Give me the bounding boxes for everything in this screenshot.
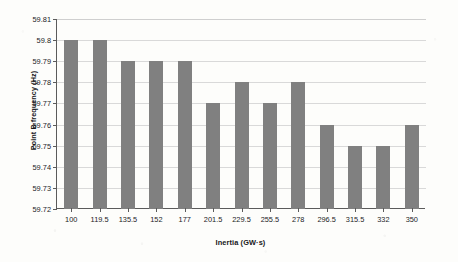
x-axis-title: Inertia (GW·s) — [56, 238, 425, 247]
x-tick-mark — [298, 208, 299, 212]
x-tick-mark — [383, 208, 384, 212]
y-tick-label: 59.79 — [33, 57, 52, 66]
y-tick-label: 59.74 — [33, 162, 52, 171]
bar — [263, 103, 277, 209]
x-tick-mark — [412, 208, 413, 212]
x-tick-label: 296.5 — [317, 215, 336, 224]
y-tick-label: 59.77 — [33, 99, 52, 108]
x-tick-label: 332 — [377, 215, 389, 224]
bar — [291, 82, 305, 209]
x-tick-mark — [100, 208, 101, 212]
x-tick-label: 152 — [150, 215, 162, 224]
bar — [376, 146, 390, 209]
x-tick-label: 255.5 — [261, 215, 280, 224]
x-tick-mark — [242, 208, 243, 212]
x-tick-label: 119.5 — [91, 215, 109, 224]
y-tick-label: 59.73 — [33, 183, 52, 192]
y-tick-label: 59.76 — [33, 120, 52, 129]
x-tick-label: 100 — [65, 215, 77, 224]
bar — [93, 40, 107, 209]
x-tick-label: 350 — [406, 215, 418, 224]
y-tick-label: 59.8 — [37, 36, 51, 45]
x-tick-mark — [156, 208, 157, 212]
x-tick-label: 201.5 — [204, 215, 223, 224]
x-tick-mark — [128, 208, 129, 212]
y-tick-mark — [53, 209, 57, 210]
x-tick-mark — [270, 208, 271, 212]
x-tick-mark — [71, 208, 72, 212]
y-tick-label: 59.72 — [33, 205, 52, 214]
bar — [348, 146, 362, 209]
y-tick-label: 59.81 — [33, 15, 52, 24]
bar — [64, 40, 78, 209]
bar — [149, 61, 163, 209]
y-axis-title: Point B frequency (Hz) — [29, 21, 38, 201]
plot-area: 59.7259.7359.7459.7559.7659.7759.7859.79… — [56, 19, 425, 209]
x-tick-mark — [355, 208, 356, 212]
bar-chart-figure: Point B frequency (Hz) 59.7259.7359.7459… — [0, 0, 458, 262]
y-tick-label: 59.75 — [33, 141, 52, 150]
x-tick-label: 278 — [292, 215, 304, 224]
y-tick-label: 59.78 — [33, 78, 52, 87]
x-tick-mark — [327, 208, 328, 212]
bar — [320, 125, 334, 209]
x-tick-label: 315.5 — [346, 215, 365, 224]
bar — [178, 61, 192, 209]
x-tick-mark — [185, 208, 186, 212]
bar — [235, 82, 249, 209]
x-tick-mark — [213, 208, 214, 212]
bar — [405, 125, 419, 209]
bar — [121, 61, 135, 209]
x-tick-label: 135.5 — [119, 215, 138, 224]
bar — [206, 103, 220, 209]
bars-layer — [57, 19, 426, 209]
x-tick-label: 229.5 — [232, 215, 251, 224]
x-tick-label: 177 — [179, 215, 191, 224]
